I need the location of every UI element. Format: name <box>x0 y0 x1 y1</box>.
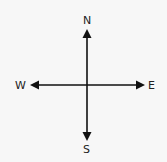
east-label: E <box>148 80 155 91</box>
west-arrow-icon <box>30 81 39 90</box>
south-arrow-icon <box>83 132 92 141</box>
north-label: N <box>83 15 91 26</box>
north-arrow-icon <box>83 29 92 38</box>
east-arrow-icon <box>136 81 145 90</box>
west-label: W <box>15 80 26 91</box>
south-label: S <box>83 144 90 155</box>
